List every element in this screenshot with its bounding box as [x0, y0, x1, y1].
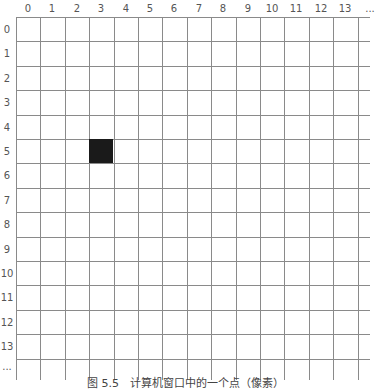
row-label: 13	[0, 341, 14, 353]
column-label: 4	[114, 3, 138, 15]
grid-horizontal-line	[16, 90, 370, 91]
row-label: 11	[0, 292, 14, 304]
grid-horizontal-line	[16, 359, 370, 360]
row-label: 8	[0, 219, 14, 231]
grid-vertical-line	[260, 17, 261, 380]
grid-vertical-line	[16, 17, 17, 380]
row-label: 3	[0, 97, 14, 109]
grid-vertical-line	[40, 17, 41, 380]
grid-vertical-line	[284, 17, 285, 380]
highlighted-pixel	[89, 139, 113, 163]
row-label: 1	[0, 48, 14, 60]
grid-horizontal-line	[16, 334, 370, 335]
row-label: ...	[0, 361, 14, 373]
grid-vertical-line	[211, 17, 212, 380]
grid-horizontal-line	[16, 285, 370, 286]
figure-caption: 图 5.5 计算机窗口中的一个点（像素）	[0, 377, 371, 391]
grid-vertical-line	[333, 17, 334, 380]
column-label: 2	[65, 3, 89, 15]
column-label: 13	[333, 3, 357, 15]
grid-horizontal-line	[16, 163, 370, 164]
row-label: 5	[0, 146, 14, 158]
column-label: 12	[309, 3, 333, 15]
grid-horizontal-line	[16, 139, 370, 140]
row-label: 7	[0, 195, 14, 207]
column-label: 7	[187, 3, 211, 15]
row-label: 12	[0, 317, 14, 329]
grid-horizontal-line	[16, 115, 370, 116]
grid-vertical-line	[309, 17, 310, 380]
column-label: 1	[40, 3, 64, 15]
grid-horizontal-line	[16, 212, 370, 213]
grid-horizontal-line	[16, 261, 370, 262]
grid-vertical-line	[358, 17, 359, 380]
row-label: 9	[0, 244, 14, 256]
grid-horizontal-line	[16, 17, 370, 18]
column-label: 9	[236, 3, 260, 15]
row-label: 6	[0, 170, 14, 182]
column-label: 11	[284, 3, 308, 15]
grid-vertical-line	[89, 17, 90, 380]
column-label: 10	[260, 3, 284, 15]
column-label: 0	[16, 3, 40, 15]
column-label: 8	[211, 3, 235, 15]
grid-vertical-line	[65, 17, 66, 380]
row-label: 10	[0, 268, 14, 280]
row-label: 2	[0, 73, 14, 85]
grid-horizontal-line	[16, 41, 370, 42]
grid-vertical-line	[162, 17, 163, 380]
row-label: 0	[0, 24, 14, 36]
column-label: ...	[358, 3, 379, 15]
grid-horizontal-line	[16, 188, 370, 189]
grid-horizontal-line	[16, 310, 370, 311]
grid-vertical-line	[187, 17, 188, 380]
grid-horizontal-line	[16, 237, 370, 238]
grid-vertical-line	[114, 17, 115, 380]
column-label: 6	[162, 3, 186, 15]
grid-horizontal-line	[16, 66, 370, 67]
grid-vertical-line	[236, 17, 237, 380]
grid-vertical-line	[138, 17, 139, 380]
row-label: 4	[0, 122, 14, 134]
column-label: 3	[89, 3, 113, 15]
column-label: 5	[138, 3, 162, 15]
